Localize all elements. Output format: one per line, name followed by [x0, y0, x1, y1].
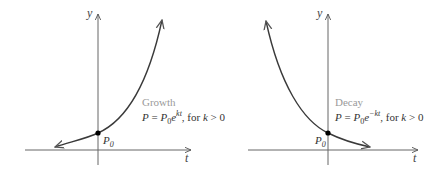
formula-cond: > 0 [406, 111, 423, 123]
growth-formula: P = P0ekt, for k > 0 [142, 109, 225, 126]
formula-eq: = [342, 111, 354, 123]
growth-p0-point [95, 130, 100, 135]
growth-y-label: y [87, 6, 92, 21]
decay-y-label: y [317, 6, 322, 21]
formula-cond: > 0 [208, 111, 225, 123]
formula-lhs: P [142, 111, 149, 123]
growth-t-label: t [185, 151, 188, 166]
decay-graph [248, 14, 418, 165]
p-subscript: 0 [322, 140, 326, 149]
decay-title: Decay [335, 96, 363, 108]
exponential-diagrams [0, 0, 439, 175]
p-symbol: P [315, 134, 322, 146]
p-subscript: 0 [110, 140, 114, 149]
decay-curve [266, 21, 370, 147]
decay-p0-label: P0 [315, 134, 326, 149]
growth-curve [55, 20, 162, 147]
growth-title: Growth [142, 96, 176, 108]
growth-p0-label: P0 [103, 134, 114, 149]
formula-exponent: −kt [369, 109, 380, 118]
formula-lhs: P [335, 111, 342, 123]
p-symbol: P [103, 134, 110, 146]
formula-eq: = [149, 111, 161, 123]
decay-t-label: t [413, 151, 416, 166]
decay-formula: P = P0e−kt, for k > 0 [335, 109, 423, 126]
formula-tail: , for [182, 111, 203, 123]
decay-p0-point [325, 130, 330, 135]
formula-tail: , for [380, 111, 401, 123]
